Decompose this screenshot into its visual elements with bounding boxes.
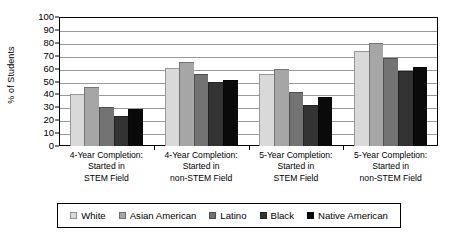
y-tick-label: 10 xyxy=(43,128,54,138)
y-tick-label: 30 xyxy=(43,103,54,113)
legend-item[interactable]: Native American xyxy=(307,211,388,221)
y-tick-label: 100 xyxy=(38,12,54,22)
x-axis-labels: 4-Year Completion:Started inSTEM Field4-… xyxy=(59,150,438,192)
chart-legend: WhiteAsian AmericanLatinoBlackNative Ame… xyxy=(57,203,401,228)
legend-swatch-icon xyxy=(70,212,77,219)
gridline xyxy=(60,108,437,109)
gridline xyxy=(60,57,437,58)
x-axis-label-line: Started in xyxy=(335,161,446,172)
y-tick-label: 40 xyxy=(43,90,54,100)
gridline xyxy=(60,121,437,122)
legend-swatch-icon xyxy=(260,212,267,219)
y-axis-ticks: 1009080706050403020100 xyxy=(30,17,59,146)
plot-area xyxy=(59,17,438,146)
legend-label: Asian American xyxy=(130,211,197,221)
legend-label: Latino xyxy=(220,211,246,221)
x-axis-label-line: 5-Year Completion: xyxy=(335,150,446,161)
y-axis-title: % of Students xyxy=(0,0,22,150)
gridlines xyxy=(60,18,437,145)
legend-label: White xyxy=(81,211,106,221)
y-tick-label: 50 xyxy=(43,77,54,87)
gridline xyxy=(60,134,437,135)
y-tick-label: 70 xyxy=(43,51,54,61)
legend-item[interactable]: Latino xyxy=(209,211,246,221)
y-tick-label: 60 xyxy=(43,64,54,74)
gridline xyxy=(60,70,437,71)
legend-swatch-icon xyxy=(307,212,314,219)
legend-label: Native American xyxy=(318,211,388,221)
x-axis-label-line: non-STEM Field xyxy=(335,173,446,184)
legend-swatch-icon xyxy=(209,212,216,219)
y-tick-label: 80 xyxy=(43,38,54,48)
y-axis-title-text: % of Students xyxy=(6,46,16,103)
legend-item[interactable]: Asian American xyxy=(119,211,197,221)
gridline xyxy=(60,44,437,45)
legend-item[interactable]: White xyxy=(70,211,106,221)
gridline xyxy=(60,31,437,32)
legend-item[interactable]: Black xyxy=(260,211,294,221)
y-tick-label: 20 xyxy=(43,115,54,125)
y-tick-label: 90 xyxy=(43,25,54,35)
bar-chart: % of Students 1009080706050403020100 4-Y… xyxy=(0,0,456,242)
gridline xyxy=(60,83,437,84)
legend-swatch-icon xyxy=(119,212,126,219)
x-axis-label: 5-Year Completion:Started innon-STEM Fie… xyxy=(335,150,446,184)
legend-label: Black xyxy=(271,211,294,221)
gridline xyxy=(60,95,437,96)
